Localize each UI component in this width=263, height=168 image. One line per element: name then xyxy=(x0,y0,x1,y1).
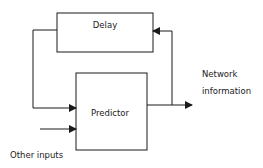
other-inputs-label: Other inputs xyxy=(10,151,63,160)
block-diagram xyxy=(0,0,263,168)
output-label-line2: information xyxy=(202,87,251,96)
delay-label: Delay xyxy=(93,21,117,30)
feedback-arrow xyxy=(153,31,172,105)
predictor-label: Predictor xyxy=(91,109,129,118)
output-label-line1: Network xyxy=(202,70,238,79)
delay-to-predictor-arrow xyxy=(33,30,76,108)
